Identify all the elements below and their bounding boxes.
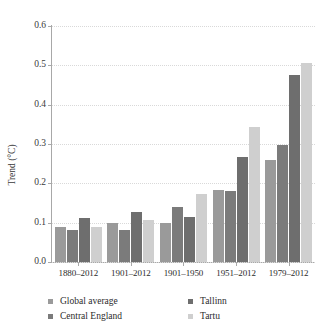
legend: Global averageTallinnCentral EnglandTart… xyxy=(48,296,310,322)
x-axis-tick-label: 1901–1950 xyxy=(157,266,210,282)
bar xyxy=(119,230,130,262)
bar xyxy=(67,230,78,262)
bar xyxy=(301,63,312,262)
bar-group xyxy=(262,26,315,262)
bar-group xyxy=(210,26,263,262)
bar-group xyxy=(52,26,105,262)
y-axis-tick-label: 0.6 xyxy=(34,21,46,31)
legend-item[interactable]: Global average xyxy=(48,296,170,307)
clipped-top-caption xyxy=(100,0,323,12)
bar-group xyxy=(105,26,158,262)
bar-groups xyxy=(52,26,315,262)
bar xyxy=(213,190,224,262)
y-axis-title: Trend (°C) xyxy=(7,120,17,210)
bar xyxy=(172,207,183,262)
bar xyxy=(265,160,276,262)
y-axis-tick-label: 0.0 xyxy=(34,257,46,267)
bar xyxy=(289,75,300,262)
legend-swatch-icon xyxy=(188,314,193,319)
legend-label: Global average xyxy=(60,296,118,307)
legend-label: Tartu xyxy=(200,311,220,322)
legend-swatch-icon xyxy=(48,299,53,304)
y-axis-tick-label: 0.1 xyxy=(34,218,46,228)
y-axis-tick-label: 0.5 xyxy=(34,61,46,71)
bar xyxy=(91,227,102,262)
y-axis-tick-label: 0.3 xyxy=(34,139,46,149)
plot-area: 0.60.50.40.30.20.10.0 xyxy=(52,26,315,262)
bar xyxy=(79,218,90,262)
y-axis-tick-label: 0.4 xyxy=(34,100,46,110)
x-axis-tick-label: 1880–2012 xyxy=(52,266,105,282)
legend-item[interactable]: Central England xyxy=(48,311,170,322)
bar xyxy=(249,127,260,262)
bar xyxy=(55,227,66,262)
legend-swatch-icon xyxy=(48,314,53,319)
bar xyxy=(107,223,118,262)
bar xyxy=(160,223,171,262)
x-axis-tick-label: 1901–2012 xyxy=(105,266,158,282)
bar xyxy=(225,191,236,262)
bar xyxy=(131,212,142,262)
x-axis-tick-label: 1979–2012 xyxy=(262,266,315,282)
legend-item[interactable]: Tallinn xyxy=(188,296,310,307)
bar-chart: Trend (°C) 0.60.50.40.30.20.10.0 1880–20… xyxy=(0,0,323,329)
bar xyxy=(143,220,154,262)
bar xyxy=(196,194,207,262)
bar xyxy=(277,145,288,262)
legend-label: Tallinn xyxy=(200,296,227,307)
bar xyxy=(184,217,195,262)
legend-item[interactable]: Tartu xyxy=(188,311,310,322)
x-axis-tick-label: 1951–2012 xyxy=(210,266,263,282)
legend-swatch-icon xyxy=(188,299,193,304)
legend-label: Central England xyxy=(60,311,122,322)
y-axis-tick-mark xyxy=(48,262,52,263)
y-axis-tick-label: 0.2 xyxy=(34,179,46,189)
x-axis-labels: 1880–20121901–20121901–19501951–20121979… xyxy=(52,266,315,282)
bar-group xyxy=(157,26,210,262)
bar xyxy=(237,157,248,262)
